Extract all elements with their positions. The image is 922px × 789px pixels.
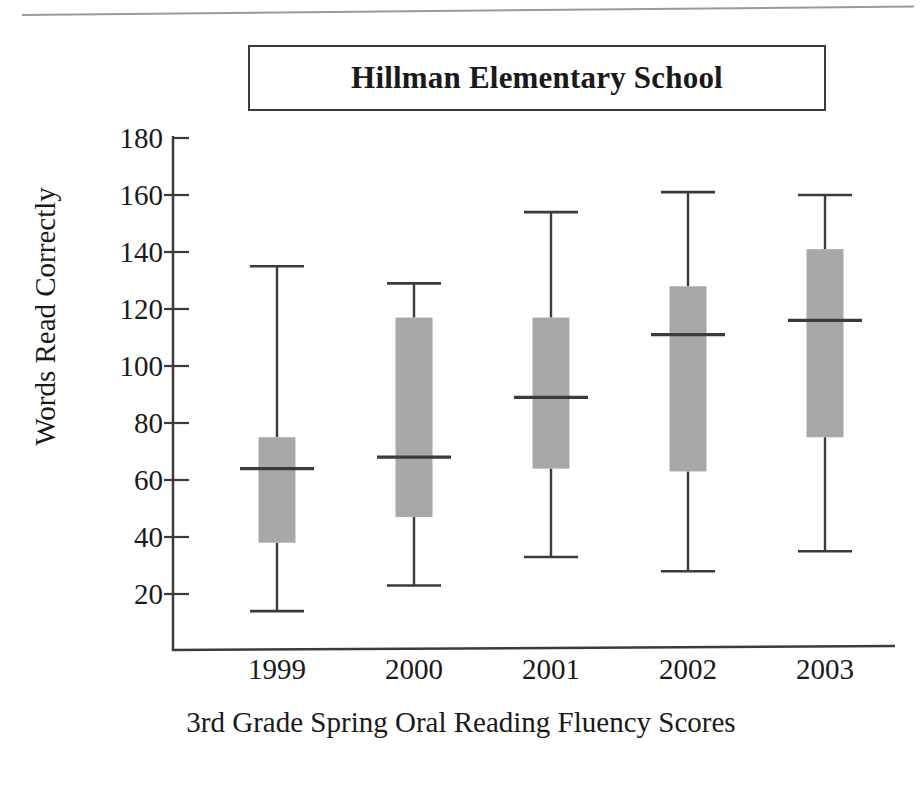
box-iqr-rect: [807, 249, 844, 437]
box-plot-item-1999: [240, 266, 314, 611]
box-iqr-rect: [259, 437, 296, 542]
x-tick-label-2002: 2002: [623, 655, 753, 684]
box-plot-item-2001: [514, 212, 588, 557]
x-tick-label-1999: 1999: [212, 655, 342, 684]
figure-page: Hillman Elementary School 180 160 140 12…: [0, 0, 922, 789]
x-axis-line: [172, 646, 895, 650]
x-tick-label-2000: 2000: [349, 655, 479, 684]
box-plot-item-2000: [377, 283, 451, 585]
x-tick-label-2003: 2003: [760, 655, 890, 684]
x-tick-label-2001: 2001: [486, 655, 616, 684]
box-plot-series: [240, 192, 862, 611]
x-axis-title: 3rd Grade Spring Oral Reading Fluency Sc…: [0, 706, 922, 739]
box-iqr-rect: [670, 286, 707, 471]
box-plot-item-2003: [788, 195, 862, 551]
box-plot-item-2002: [651, 192, 725, 571]
box-plot-chart: 180 160 140 120 100 80 60 40 20 Words Re…: [0, 0, 922, 789]
y-axis-ticks: [164, 138, 189, 594]
box-iqr-rect: [396, 318, 433, 518]
box-iqr-rect: [533, 318, 570, 469]
